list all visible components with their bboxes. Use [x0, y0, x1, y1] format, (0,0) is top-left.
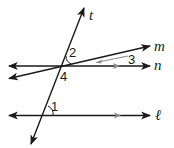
- line-label-t: t: [89, 7, 94, 23]
- angle-label-2: 2: [69, 45, 76, 60]
- angle-label-4: 4: [60, 69, 67, 84]
- angle-label-3: 3: [128, 52, 135, 67]
- line-label-l: ℓ: [155, 107, 161, 123]
- geometry-diagram: 2 3 4 1 t m n ℓ: [0, 0, 174, 148]
- line-t: [31, 8, 84, 144]
- line-label-n: n: [154, 57, 162, 73]
- line-label-m: m: [154, 38, 165, 54]
- angle-label-1: 1: [51, 99, 58, 114]
- diagram-svg: 2 3 4 1 t m n ℓ: [0, 0, 174, 148]
